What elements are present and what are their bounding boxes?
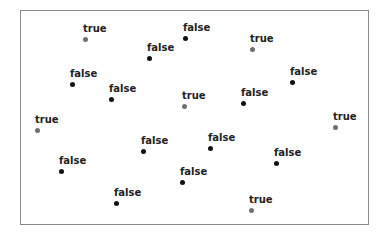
data-point-marker [249, 208, 254, 213]
data-point-label: true [35, 115, 59, 125]
data-point-marker [109, 97, 114, 102]
data-point-marker [333, 125, 338, 130]
plot-area [20, 10, 369, 225]
data-point-marker [274, 161, 279, 166]
data-point-label: false [180, 167, 207, 177]
data-point-label: false [147, 43, 174, 53]
data-point-marker [141, 149, 146, 154]
data-point-marker [59, 169, 64, 174]
data-point-marker [83, 37, 88, 42]
data-point-label: true [249, 195, 273, 205]
data-point-marker [114, 201, 119, 206]
data-point-label: true [182, 91, 206, 101]
data-point-label: false [59, 156, 86, 166]
data-point-label: false [70, 69, 97, 79]
data-point-label: false [208, 133, 235, 143]
data-point-marker [241, 101, 246, 106]
data-point-marker [35, 128, 40, 133]
data-point-marker [290, 80, 295, 85]
data-point-marker [183, 36, 188, 41]
data-point-marker [147, 56, 152, 61]
data-point-marker [250, 47, 255, 52]
data-point-label: false [114, 188, 141, 198]
data-point-label: false [274, 148, 301, 158]
data-point-label: false [141, 136, 168, 146]
data-point-marker [180, 180, 185, 185]
data-point-marker [182, 104, 187, 109]
data-point-label: false [241, 88, 268, 98]
data-point-label: false [183, 23, 210, 33]
data-point-label: false [109, 84, 136, 94]
data-point-label: true [333, 112, 357, 122]
data-point-label: true [83, 24, 107, 34]
data-point-marker [208, 146, 213, 151]
data-point-label: true [250, 34, 274, 44]
data-point-marker [70, 82, 75, 87]
data-point-label: false [290, 67, 317, 77]
